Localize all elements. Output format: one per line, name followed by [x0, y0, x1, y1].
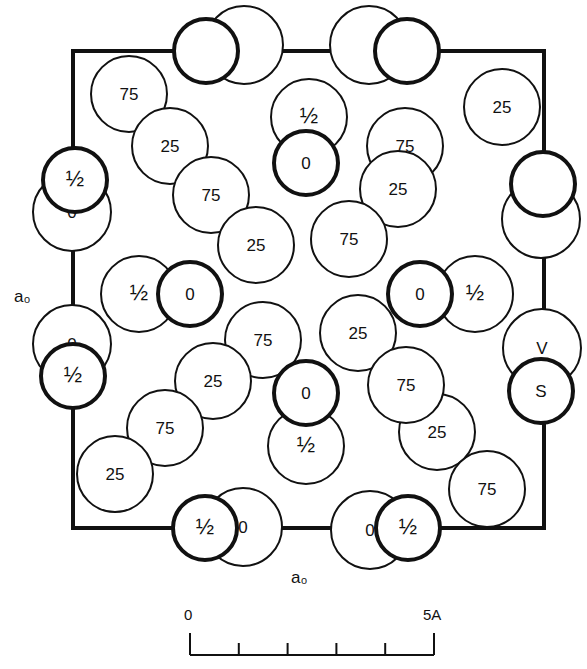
atom-bold-circle — [511, 152, 575, 216]
atom-height-label: 75 — [254, 331, 273, 350]
atom-height-label: 25 — [247, 236, 266, 255]
atom-bold-circle — [375, 19, 439, 83]
axis-label-left: a₀ — [14, 288, 31, 305]
atom-height-label: ½ — [300, 103, 318, 128]
atom-height-label: 25 — [106, 465, 125, 484]
atom-height-label: 0 — [238, 518, 247, 537]
atom-height-label: ½ — [297, 432, 315, 457]
atom-height-label: ½ — [64, 362, 82, 387]
atom-height-label: 25 — [389, 180, 408, 199]
atom: ½ — [173, 496, 237, 560]
scale-bar-end-label: 5A — [423, 607, 441, 622]
atom-height-label: 0 — [301, 154, 310, 173]
atom-height-label: V — [536, 339, 548, 358]
atom-height-label: ½ — [66, 166, 84, 191]
atom: ½ — [43, 148, 107, 212]
atom-height-label: 25 — [161, 137, 180, 156]
atom-height-label: ½ — [130, 280, 148, 305]
atom-height-label: 75 — [120, 85, 139, 104]
atom: 25 — [77, 436, 153, 512]
atom-height-label: ½ — [399, 514, 417, 539]
atom-height-label: ½ — [196, 514, 214, 539]
atom-height-label: 75 — [478, 480, 497, 499]
atom: 25 — [464, 69, 540, 145]
atom-height-label: 25 — [428, 423, 447, 442]
atom: 0 — [388, 262, 452, 326]
atom: 75 — [449, 451, 525, 527]
atom: 25 — [218, 207, 294, 283]
atom — [511, 152, 575, 216]
atom: S — [509, 359, 573, 423]
atom-height-label: 25 — [493, 98, 512, 117]
atom: 0 — [274, 361, 338, 425]
atom-height-label: 75 — [156, 419, 175, 438]
atom — [375, 19, 439, 83]
atom: 75 — [368, 347, 444, 423]
atom-height-label: 0 — [415, 285, 424, 304]
atom-bold-circle — [174, 19, 238, 83]
atom-height-label: 0 — [185, 285, 194, 304]
crystal-structure-diagram: 00V0075257525½25752575½½7525752525257575… — [0, 0, 587, 669]
atom-height-label: 0 — [301, 384, 310, 403]
atom-height-label: 75 — [397, 376, 416, 395]
atom: 75 — [311, 201, 387, 277]
atom: ½ — [41, 344, 105, 408]
scale-bar-start-label: 0 — [184, 607, 192, 622]
atom-height-label: 75 — [202, 186, 221, 205]
axis-label-bottom: a₀ — [291, 569, 308, 586]
atom-height-label: 25 — [204, 372, 223, 391]
atom: 0 — [158, 262, 222, 326]
atom-height-label: ½ — [466, 280, 484, 305]
atom: 0 — [274, 131, 338, 195]
atom-height-label: 25 — [349, 324, 368, 343]
atom-height-label: 75 — [340, 230, 359, 249]
atom: ½ — [376, 496, 440, 560]
atom-height-label: S — [535, 382, 546, 401]
atom-height-label: 0 — [365, 521, 374, 540]
atom — [174, 19, 238, 83]
